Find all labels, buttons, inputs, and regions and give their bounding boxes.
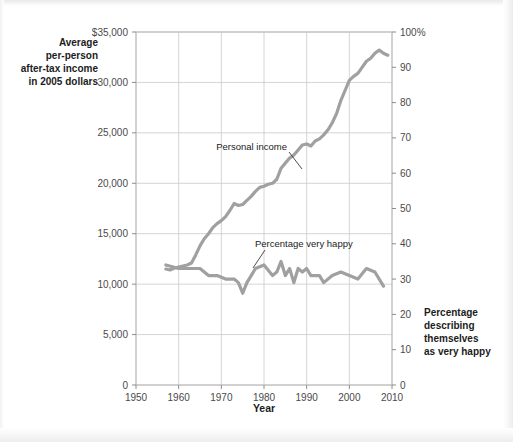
left-tick-label: 5,000 <box>103 329 128 340</box>
right-axis-caption: Percentagedescribingthemselvesas very ha… <box>424 307 491 357</box>
x-tick-label: 1950 <box>125 392 148 403</box>
right-tick-label: 50 <box>400 203 412 214</box>
x-tick-label: 1960 <box>168 392 191 403</box>
right-tick-label: 70 <box>400 132 412 143</box>
right-tick-label: 10 <box>400 344 412 355</box>
left-caption-line: in 2005 dollars <box>29 76 99 87</box>
x-axis-title: Year <box>253 402 275 414</box>
left-tick-label: 15,000 <box>97 228 128 239</box>
x-tick-label: 2000 <box>338 392 361 403</box>
right-tick-label: 100% <box>400 27 426 38</box>
right-tick-label: 40 <box>400 238 412 249</box>
right-caption-line: describing <box>424 320 475 331</box>
right-caption-line: themselves <box>424 333 479 344</box>
right-tick-label: 20 <box>400 309 412 320</box>
income-annotation-label: Personal income <box>216 141 287 152</box>
left-tick-label: 30,000 <box>97 77 128 88</box>
left-caption-line: Average <box>59 37 99 48</box>
x-axis-ticks <box>136 385 392 389</box>
figure-container: Personal income Percentage very happy $3… <box>0 0 513 442</box>
x-tick-label: 1970 <box>210 392 233 403</box>
line-chart: Personal income Percentage very happy $3… <box>0 0 513 442</box>
left-tick-label: 10,000 <box>97 279 128 290</box>
left-axis-caption: Averageper-personafter-tax incomein 2005… <box>21 37 99 87</box>
right-tick-label: 0 <box>400 380 406 391</box>
right-tick-label: 30 <box>400 274 412 285</box>
right-tick-label: 90 <box>400 62 412 73</box>
x-tick-label: 2010 <box>381 392 404 403</box>
left-caption-line: per-person <box>46 50 98 61</box>
happy-annotation-label: Percentage very happy <box>255 238 353 249</box>
right-tick-label: 80 <box>400 97 412 108</box>
right-tick-label: 60 <box>400 168 412 179</box>
left-caption-line: after-tax income <box>21 63 99 74</box>
right-axis-ticks <box>392 32 396 385</box>
left-tick-label: 0 <box>122 380 128 391</box>
right-caption-line: Percentage <box>424 307 478 318</box>
right-axis-tick-labels: 100%9080706050403020100 <box>400 27 426 391</box>
left-tick-label: 20,000 <box>97 178 128 189</box>
right-caption-line: as very happy <box>424 346 491 357</box>
left-tick-label: 25,000 <box>97 127 128 138</box>
left-axis-ticks <box>132 32 136 385</box>
left-tick-label: $35,000 <box>92 27 129 38</box>
x-tick-label: 1990 <box>296 392 319 403</box>
